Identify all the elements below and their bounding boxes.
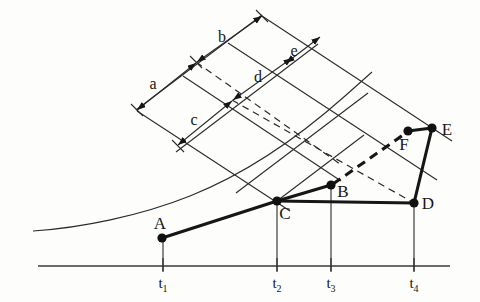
- projection-rail-3: [236, 93, 368, 193]
- point-label-E: E: [442, 120, 452, 139]
- dimension-label-c: c: [190, 111, 197, 128]
- point-label-F: F: [399, 135, 408, 154]
- dimension-arrows-group: [137, 16, 320, 145]
- technical-diagram: a b c d e A B C D E F t1 t2 t3: [0, 0, 480, 302]
- dashed-construction-group: [196, 62, 414, 203]
- point-label-C: C: [279, 204, 290, 223]
- node-E: [427, 123, 436, 132]
- cross-rail-4: [262, 16, 452, 141]
- tick-label-t1: t1: [158, 275, 167, 294]
- node-A: [157, 233, 166, 242]
- background-curve-group: [33, 72, 372, 231]
- path-C-D: [277, 201, 414, 203]
- point-label-A: A: [154, 214, 167, 233]
- path-D-E-F: [408, 128, 432, 203]
- dimension-label-a: a: [149, 75, 156, 92]
- tick-label-t4-sub: 4: [414, 283, 419, 294]
- diagram-canvas: a b c d e A B C D E F t1 t2 t3: [0, 0, 480, 302]
- point-labels-group: A B C D E F: [154, 120, 452, 233]
- tick-label-t3-sub: 3: [331, 283, 336, 294]
- point-label-B: B: [337, 182, 348, 201]
- dimension-label-e: e: [290, 42, 297, 59]
- axis-tick-marks: [163, 258, 414, 272]
- dimension-arrow-b: [197, 16, 262, 62]
- dimension-arrow-c: [178, 101, 232, 145]
- point-label-D: D: [422, 194, 434, 213]
- path-B-F-dashed: [333, 133, 406, 184]
- node-B: [326, 180, 335, 189]
- tick-labels-group: t1 t2 t3 t4: [158, 275, 418, 294]
- node-D: [409, 198, 418, 207]
- path-A-C-B: [162, 185, 331, 238]
- dimension-label-b: b: [218, 28, 226, 45]
- thick-dashed-group: [333, 133, 406, 184]
- dimension-label-d: d: [254, 68, 262, 85]
- tick-label-t1-sub: 1: [163, 283, 168, 294]
- primary-path-group: [162, 128, 432, 238]
- witness-b-top: [256, 10, 268, 22]
- tick-label-t4: t4: [409, 275, 418, 294]
- tick-label-t2: t2: [272, 275, 281, 294]
- background-curve: [33, 72, 372, 231]
- time-axis-group: [38, 258, 450, 272]
- tick-label-t2-sub: 2: [277, 283, 282, 294]
- tick-label-t3: t3: [326, 275, 335, 294]
- dimension-labels-group: a b c d e: [149, 28, 297, 128]
- cross-rail-1: [137, 111, 290, 211]
- dimension-arrow-a: [137, 63, 196, 110]
